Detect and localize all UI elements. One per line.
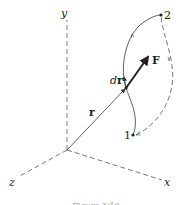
solid-path [123,15,161,135]
x-axis-label: x [164,176,171,189]
point-1 [131,133,134,136]
path-point [124,86,127,89]
x-axis [67,150,162,180]
figure-caption: Figure 3/10 [71,201,119,205]
dashed-path-arrow [168,57,170,61]
force-vector [126,57,148,88]
position-vector-label: r [89,106,95,119]
point-1-label: 1 [124,129,131,142]
point-2 [159,13,162,16]
dashed-path [136,15,173,135]
force-label: F [152,54,160,67]
z-axis-label: z [8,176,15,189]
position-vector [67,89,125,150]
path-direction-arrow [131,34,134,38]
z-axis [18,150,67,177]
y-axis-label: y [60,7,68,20]
work-path-diagram: y x z r dr F 1 2 Figure 3/10 [0,0,184,205]
point-2-label: 2 [164,9,171,22]
displacement-label: dr [110,74,123,87]
